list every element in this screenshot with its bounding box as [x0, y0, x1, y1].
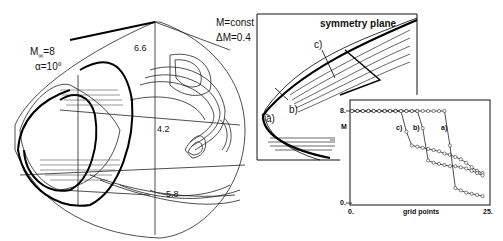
inset-data-point — [459, 158, 462, 161]
inset-data-point — [465, 167, 468, 170]
inset-data-point — [388, 109, 391, 112]
inset-data-point — [459, 166, 462, 169]
inset-data-point — [421, 146, 424, 149]
inset-data-point — [350, 109, 353, 112]
inset-data-point — [405, 109, 408, 112]
inset-data-point — [448, 144, 451, 147]
inset-data-point — [421, 109, 424, 112]
inset-data-point — [481, 174, 484, 177]
inset-data-point — [432, 161, 435, 164]
inset-ylabel: M — [341, 123, 347, 130]
inset-data-point — [465, 191, 468, 194]
inset-data-point — [416, 109, 419, 112]
inset-ytick-top: 8. — [340, 107, 346, 114]
inset-data-point — [448, 165, 451, 168]
figure: M∞=8 α=10° 6.6 4.2 5.8 — [0, 0, 503, 241]
inset-data-point — [437, 162, 440, 165]
inset-data-point — [427, 109, 430, 112]
inset-data-point — [470, 169, 473, 172]
inset-data-point — [443, 152, 446, 155]
inset-xtick-right: 25. — [483, 208, 493, 215]
inset-data-point — [470, 192, 473, 195]
inset-data-point — [443, 163, 446, 166]
inset-data-point — [405, 130, 408, 133]
inset-data-point — [399, 109, 402, 112]
inset-data-point — [361, 109, 364, 112]
inset-frame — [350, 100, 490, 205]
inset-chart — [0, 0, 503, 241]
inset-data-point — [383, 109, 386, 112]
inset-data-point — [432, 149, 435, 152]
inset-data-point — [372, 109, 375, 112]
inset-data-point — [476, 172, 479, 175]
inset-series-label-a: a) — [441, 124, 447, 131]
inset-data-point — [481, 195, 484, 198]
inset-series-label-b: b) — [413, 124, 420, 131]
inset-data-point — [459, 189, 462, 192]
inset-data-point — [367, 109, 370, 112]
inset-data-point — [356, 109, 359, 112]
inset-data-point — [410, 109, 413, 112]
inset-xlabel: grid points — [403, 208, 439, 215]
inset-data-point — [437, 109, 440, 112]
inset-data-point — [437, 150, 440, 153]
inset-data-point — [378, 109, 381, 112]
inset-data-point — [394, 109, 397, 112]
inset-data-point — [416, 145, 419, 148]
inset-data-point — [465, 161, 468, 164]
inset-data-point — [454, 155, 457, 158]
inset-series-label-c: c) — [396, 124, 402, 131]
inset-data-point — [410, 144, 413, 147]
inset-data-point — [476, 193, 479, 196]
inset-data-point — [427, 147, 430, 150]
inset-data-point — [454, 165, 457, 168]
inset-data-point — [432, 109, 435, 112]
inset-data-point — [470, 166, 473, 169]
inset-xtick-left: 0. — [348, 208, 354, 215]
inset-data-point — [443, 109, 446, 112]
inset-data-point — [454, 186, 457, 189]
inset-ytick-bottom: 0. — [340, 199, 346, 206]
inset-data-point — [421, 127, 424, 130]
inset-data-point — [427, 159, 430, 162]
